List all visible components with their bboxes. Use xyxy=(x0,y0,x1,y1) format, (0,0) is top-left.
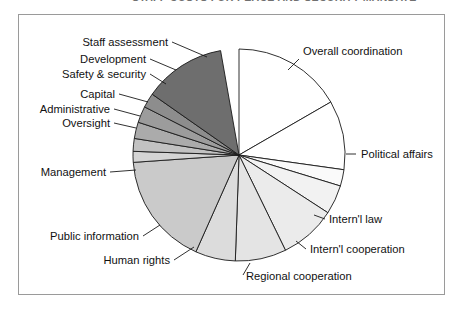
pie-slice-label: Safety & security xyxy=(62,68,146,80)
leader-line xyxy=(296,241,306,249)
pie-slice-label: Administrative xyxy=(40,103,110,115)
pie-slice-label: Regional cooperation xyxy=(246,270,352,282)
pie-slice-label: Management xyxy=(41,166,107,178)
leader-line xyxy=(174,247,194,260)
pie-chart: Staff assessmentDevelopmentSafety & secu… xyxy=(0,0,462,315)
pie-slices-group xyxy=(133,49,345,261)
leader-line xyxy=(114,109,140,116)
leader-line xyxy=(143,225,160,236)
leader-line xyxy=(110,170,136,172)
pie-slice-label: Staff assessment xyxy=(82,36,168,48)
pie-slice-label: Human rights xyxy=(103,254,170,266)
leader-line xyxy=(172,42,207,57)
pie-slice-label: Overall coordination xyxy=(303,45,403,57)
leader-line xyxy=(150,59,176,70)
pie-slice-label: Intern'l cooperation xyxy=(310,243,405,255)
leader-line xyxy=(150,74,166,84)
pie-slice-label: Development xyxy=(80,53,147,65)
pie-slice-label: Capital xyxy=(80,88,115,100)
leader-line xyxy=(114,123,136,128)
pie-slice-label: Intern'l law xyxy=(329,213,383,225)
pie-slice-label: Public information xyxy=(50,230,139,242)
pie-slice-label: Oversight xyxy=(62,117,111,129)
pie-slice-label: Political affairs xyxy=(361,148,433,160)
leader-line xyxy=(119,94,148,102)
